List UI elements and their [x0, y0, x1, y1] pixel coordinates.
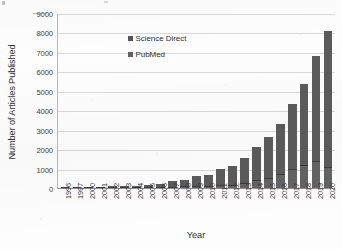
y-axis-tick-label: 4000	[37, 107, 54, 116]
x-tick-slot: 2005	[142, 190, 154, 226]
x-axis-title: Year	[57, 230, 335, 240]
y-axis-title-text: Number of Articles Published	[7, 44, 17, 159]
bar-slot	[107, 14, 119, 188]
y-axis-tick-label: 3000	[37, 126, 54, 135]
science-direct-swatch-icon	[128, 36, 133, 41]
bar-stack	[252, 147, 261, 188]
bar-slot	[250, 14, 262, 188]
x-axis-tick-labels: 1996199720002001200220032004200520062007…	[57, 190, 335, 226]
y-axis-title: Number of Articles Published	[5, 14, 19, 189]
bar-segment-science-direct	[300, 84, 309, 165]
bar-slot	[202, 14, 214, 188]
x-tick-slot: 2011	[214, 190, 226, 226]
bar-slot	[59, 14, 71, 188]
x-tick-slot: 2002	[106, 190, 118, 226]
bar-slot	[286, 14, 298, 188]
y-axis-tick-label: 9000	[37, 10, 54, 19]
y-axis-tick-labels: 0100020003000400050006000700080009000	[22, 14, 55, 189]
bar-segment-science-direct	[288, 104, 297, 169]
bar-segment-science-direct	[228, 166, 237, 185]
x-tick-slot: 2009	[190, 190, 202, 226]
bar-series-group	[58, 14, 335, 188]
scan-artifact-mark	[104, 1, 108, 3]
bar-slot	[310, 14, 322, 188]
bar-stack	[288, 104, 297, 188]
x-tick-slot: 1997	[70, 190, 82, 226]
x-tick-slot: 2018	[298, 190, 310, 226]
x-tick-slot: 2012	[226, 190, 238, 226]
chart-legend: Science Direct PubMed	[128, 34, 186, 66]
x-tick-slot: 2001	[94, 190, 106, 226]
bar-slot	[190, 14, 202, 188]
bar-segment-science-direct	[312, 56, 321, 161]
x-tick-slot: 2016	[274, 190, 286, 226]
bar-segment-science-direct	[264, 137, 273, 178]
bar-slot	[71, 14, 83, 188]
stacked-bar-chart: Number of Articles Published 01000200030…	[0, 0, 342, 249]
bar-slot	[214, 14, 226, 188]
legend-item-science-direct: Science Direct	[128, 34, 186, 43]
bar-slot	[83, 14, 95, 188]
x-tick-slot: 2020	[322, 190, 334, 226]
x-tick-slot: 2007	[166, 190, 178, 226]
pubmed-swatch-icon	[128, 52, 133, 57]
x-tick-slot: 2019	[310, 190, 322, 226]
bar-slot	[226, 14, 238, 188]
bar-stack	[300, 84, 309, 188]
bar-slot	[322, 14, 334, 188]
x-tick-slot: 2004	[130, 190, 142, 226]
bar-segment-science-direct	[324, 31, 333, 167]
bar-stack	[264, 137, 273, 188]
bar-segment-science-direct	[240, 158, 249, 183]
x-tick-slot: 2013	[238, 190, 250, 226]
bar-segment-science-direct	[252, 147, 261, 180]
y-axis-tick-label: 2000	[37, 146, 54, 155]
x-tick-slot: 2017	[286, 190, 298, 226]
bar-slot	[274, 14, 286, 188]
bar-segment-science-direct	[276, 124, 285, 175]
x-tick-slot: 2006	[154, 190, 166, 226]
y-axis-tick-label: 8000	[37, 29, 54, 38]
bar-stack	[312, 56, 321, 188]
x-tick-slot: 2008	[178, 190, 190, 226]
x-tick-slot: 1996	[58, 190, 70, 226]
bar-slot	[298, 14, 310, 188]
x-tick-slot: 2003	[118, 190, 130, 226]
plot-area: Science Direct PubMed	[57, 14, 335, 189]
bar-stack	[276, 124, 285, 188]
y-axis-tick-label: 6000	[37, 68, 54, 77]
legend-label-science-direct: Science Direct	[136, 34, 187, 43]
x-axis-title-text: Year	[187, 230, 206, 240]
y-axis-tick-label: 5000	[37, 87, 54, 96]
x-tick-slot: 2010	[202, 190, 214, 226]
y-axis-tick-label: 0	[49, 185, 53, 194]
bar-slot	[262, 14, 274, 188]
x-axis-tick-label: 2020	[328, 183, 337, 199]
bar-stack	[324, 31, 333, 188]
x-tick-slot: 2000	[82, 190, 94, 226]
x-tick-slot: 2015	[262, 190, 274, 226]
scan-artifact-mark	[2, 1, 5, 5]
bar-slot	[238, 14, 250, 188]
legend-label-pubmed: PubMed	[136, 50, 166, 59]
y-axis-tick-label: 1000	[37, 165, 54, 174]
scan-artifact-mark	[33, 13, 47, 14]
y-axis-tick-label: 7000	[37, 48, 54, 57]
bar-slot	[95, 14, 107, 188]
x-tick-slot: 2014	[250, 190, 262, 226]
legend-item-pubmed: PubMed	[128, 50, 186, 59]
